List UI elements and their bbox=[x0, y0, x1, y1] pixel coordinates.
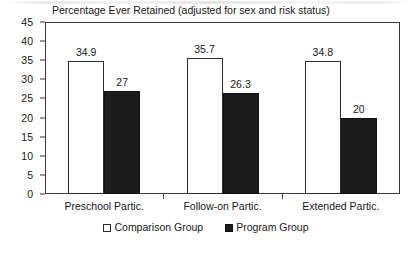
bar-value-label: 20 bbox=[341, 104, 377, 115]
white-square-icon bbox=[103, 224, 111, 232]
bar-value-label: 34.9 bbox=[68, 47, 104, 58]
legend-item-program-group: Program Group bbox=[225, 222, 308, 233]
bars-layer: 34.92735.726.334.820 bbox=[45, 22, 400, 194]
bar-value-label: 34.8 bbox=[305, 47, 341, 58]
y-tick-label: 35 bbox=[21, 55, 33, 65]
y-axis: 454035302520151050 bbox=[0, 0, 45, 255]
x-category-label: Follow-on Partic. bbox=[183, 200, 261, 213]
chart-legend: Comparison Group Program Group bbox=[0, 222, 412, 233]
y-tick-label: 30 bbox=[21, 74, 33, 84]
bar-program bbox=[223, 93, 259, 194]
x-category-label: Extended Partic. bbox=[302, 200, 379, 213]
legend-item-comparison-group: Comparison Group bbox=[103, 222, 203, 233]
black-square-icon bbox=[225, 224, 233, 232]
bar-value-label: 35.7 bbox=[187, 44, 223, 55]
bar-program bbox=[104, 91, 140, 194]
legend-label-comparison-group: Comparison Group bbox=[114, 222, 203, 233]
legend-label-program-group: Program Group bbox=[236, 222, 308, 233]
x-tick-mark bbox=[282, 194, 283, 199]
y-tick-label: 10 bbox=[21, 151, 33, 161]
y-tick-label: 20 bbox=[21, 113, 33, 123]
y-tick-label: 0 bbox=[27, 189, 33, 199]
chart-title: Percentage Ever Retained (adjusted for s… bbox=[52, 4, 330, 17]
bar-comparison bbox=[68, 61, 104, 194]
bar-comparison bbox=[305, 61, 341, 194]
bar-chart: Percentage Ever Retained (adjusted for s… bbox=[0, 0, 412, 255]
x-tick-mark bbox=[163, 194, 164, 199]
bar-value-label: 26.3 bbox=[223, 79, 259, 90]
y-tick-label: 5 bbox=[27, 170, 33, 180]
bar-comparison bbox=[187, 58, 223, 194]
y-tick-label: 25 bbox=[21, 93, 33, 103]
y-tick-label: 15 bbox=[21, 132, 33, 142]
y-tick-label: 40 bbox=[21, 36, 33, 46]
y-tick-label: 45 bbox=[21, 17, 33, 27]
x-category-label: Preschool Partic. bbox=[64, 200, 143, 213]
bar-program bbox=[341, 118, 377, 194]
bar-value-label: 27 bbox=[104, 77, 140, 88]
